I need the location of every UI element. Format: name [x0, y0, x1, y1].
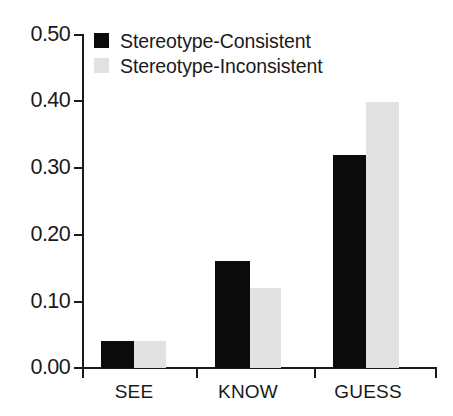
bar-guess-inconsistent [366, 102, 399, 368]
x-axis-tick [435, 369, 437, 378]
y-axis-label-010: 0.10 [8, 291, 70, 313]
x-axis-tick [196, 369, 198, 378]
black-square-swatch-icon [94, 33, 109, 48]
bar-see-consistent [101, 341, 134, 368]
bar-see-inconsistent [134, 341, 166, 368]
bar-know-consistent [215, 261, 250, 368]
y-axis-label-030: 0.30 [8, 157, 70, 179]
y-axis-label-040: 0.40 [8, 90, 70, 112]
legend-label-inconsistent: Stereotype-Inconsistent [120, 56, 323, 76]
x-axis-tick [82, 369, 84, 378]
legend-entry-consistent: Stereotype-Consistent [94, 28, 323, 53]
bar-guess-consistent [333, 155, 366, 368]
legend-entry-inconsistent: Stereotype-Inconsistent [94, 53, 323, 78]
x-axis-label-guess: GUESS [325, 382, 411, 402]
x-axis-label-see: SEE [99, 382, 169, 402]
bar-know-inconsistent [250, 288, 281, 368]
chart-legend: Stereotype-Consistent Stereotype-Inconsi… [94, 28, 323, 78]
plot-area [82, 35, 437, 368]
x-axis-tick [314, 369, 316, 378]
legend-label-consistent: Stereotype-Consistent [120, 31, 311, 51]
gray-square-swatch-icon [94, 58, 109, 73]
y-axis-label-020: 0.20 [8, 224, 70, 246]
y-axis-label-050: 0.50 [8, 24, 70, 46]
bar-chart: 0.50 0.40 0.30 0.20 0.10 0.00 SEE KNOW G… [0, 0, 453, 416]
x-axis-label-know: KNOW [205, 382, 291, 402]
y-axis-label-000: 0.00 [8, 357, 70, 379]
